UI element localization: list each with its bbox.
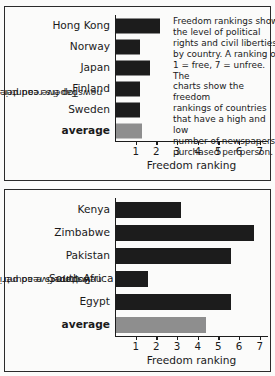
category-label: Egypt bbox=[49, 296, 115, 307]
bar-row: Egypt bbox=[49, 290, 268, 313]
category-label: Hong Kong bbox=[49, 20, 115, 31]
category-label: average bbox=[49, 125, 115, 136]
category-label: Sweden bbox=[49, 104, 115, 115]
bar-row: average bbox=[49, 313, 268, 336]
bar bbox=[115, 248, 231, 264]
category-label: Zimbabwe bbox=[49, 227, 115, 238]
bar bbox=[115, 225, 254, 241]
bar-row: Kenya bbox=[49, 198, 268, 221]
x-tick-label: 6 bbox=[236, 340, 243, 352]
x-axis-title-top: Freedom ranking bbox=[115, 159, 268, 171]
bar bbox=[115, 271, 148, 287]
bar bbox=[115, 60, 150, 75]
plot-area-top: Hong KongNorwayJapanFinlandSwedenaverage… bbox=[49, 15, 268, 177]
chart-panel-bottom: Bottom five countries (fewest newspapers… bbox=[4, 189, 271, 372]
bar-row: South Africa bbox=[49, 267, 268, 290]
category-label: average bbox=[49, 319, 115, 330]
bar bbox=[115, 18, 160, 33]
annotation-line: number of newspapers bbox=[173, 136, 275, 147]
bar bbox=[115, 39, 140, 54]
annotation-line: rankings of countries bbox=[173, 103, 275, 114]
annotation-text: Freedom rankings showthe level of politi… bbox=[173, 16, 275, 158]
annotation-line: charts show the freedom bbox=[173, 81, 275, 103]
bar-track bbox=[115, 221, 268, 244]
x-axis-title-bottom: Freedom ranking bbox=[115, 354, 268, 366]
x-tick-label: 3 bbox=[174, 340, 181, 352]
x-axis-bottom: 1234567 bbox=[115, 336, 268, 337]
annotation-line: 1 = free, 7 = unfree. The bbox=[173, 60, 275, 82]
x-tick-label: 2 bbox=[153, 340, 160, 352]
x-tick-label: 4 bbox=[194, 340, 201, 352]
plot-area-bottom: KenyaZimbabwePakistanSouth AfricaEgyptav… bbox=[49, 198, 268, 368]
bar-rows-bottom: KenyaZimbabwePakistanSouth AfricaEgyptav… bbox=[49, 198, 268, 336]
chart-panel-top: Top five countries (most newspapers read… bbox=[4, 6, 271, 181]
annotation-line: Freedom rankings show bbox=[173, 16, 275, 27]
x-tick-label: 1 bbox=[132, 340, 139, 352]
annotation-line: rights and civil liberties bbox=[173, 38, 275, 49]
y-axis-line-bottom bbox=[115, 198, 116, 336]
x-tick-label: 1 bbox=[132, 145, 139, 157]
bar-track bbox=[115, 198, 268, 221]
bar-track bbox=[115, 290, 268, 313]
y-axis-title-bottom: Bottom five countries (fewest newspapers… bbox=[5, 190, 49, 371]
bar bbox=[115, 317, 206, 333]
bar bbox=[115, 102, 140, 117]
category-label: Japan bbox=[49, 62, 115, 73]
category-label: Kenya bbox=[49, 204, 115, 215]
bar bbox=[115, 202, 181, 218]
category-label: Norway bbox=[49, 41, 115, 52]
x-tick-label: 7 bbox=[256, 340, 263, 352]
x-tick-label: 5 bbox=[215, 340, 222, 352]
bar-row: Zimbabwe bbox=[49, 221, 268, 244]
figure: Top five countries (most newspapers read… bbox=[0, 0, 275, 376]
x-axis-line-bottom bbox=[115, 336, 268, 337]
bar bbox=[115, 123, 142, 138]
annotation-line: purchased per person. bbox=[173, 147, 275, 158]
annotation-line: by country. A ranking of bbox=[173, 49, 275, 60]
y-axis-line-top bbox=[115, 15, 116, 141]
bar bbox=[115, 81, 140, 96]
x-tick-label: 2 bbox=[153, 145, 160, 157]
category-label: South Africa bbox=[49, 273, 115, 284]
bar-track bbox=[115, 244, 268, 267]
bar-track bbox=[115, 313, 268, 336]
category-label: Pakistan bbox=[49, 250, 115, 261]
bar-track bbox=[115, 267, 268, 290]
y-axis-title-top: Top five countries (most newspapers read… bbox=[5, 7, 49, 180]
annotation-line: the level of political bbox=[173, 27, 275, 38]
category-label: Finland bbox=[49, 83, 115, 94]
annotation-line: that have a high and low bbox=[173, 114, 275, 136]
bar-row: Pakistan bbox=[49, 244, 268, 267]
bar bbox=[115, 294, 231, 310]
